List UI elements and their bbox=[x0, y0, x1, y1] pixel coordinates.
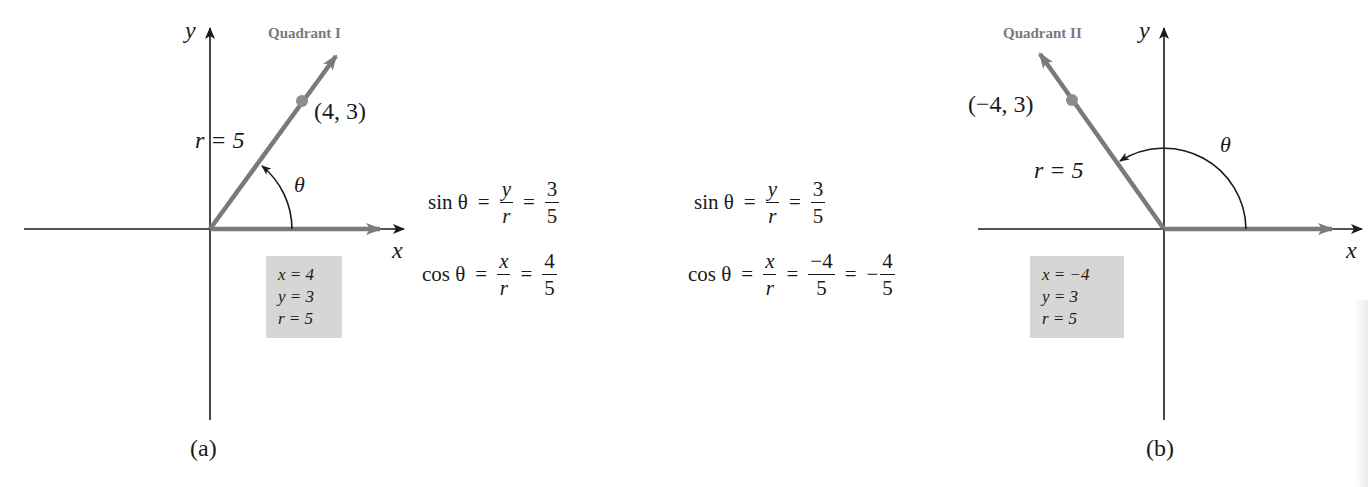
fraction-x-over-r: x r bbox=[497, 250, 510, 299]
denominator: 5 bbox=[882, 275, 893, 299]
figure-b-angle-arc bbox=[1120, 148, 1246, 229]
numerator: x bbox=[763, 250, 776, 275]
figure-b-theta-label: θ bbox=[1220, 134, 1231, 156]
numerator: 4 bbox=[542, 250, 557, 275]
equals-sign: = bbox=[789, 190, 801, 215]
figure-a-angle-arc bbox=[262, 166, 292, 229]
figure-a-quadrant-label: Quadrant I bbox=[268, 26, 341, 41]
figure-a-theta-label: θ bbox=[294, 174, 305, 196]
denominator: r bbox=[500, 275, 508, 299]
figure-a-y-axis-label: y bbox=[185, 18, 196, 42]
denominator: 5 bbox=[547, 203, 558, 227]
fraction-simplified: 4 5 bbox=[880, 250, 895, 299]
figure-b-terminal-ray bbox=[1040, 54, 1164, 229]
cos-lhs: cos θ bbox=[688, 262, 731, 287]
numerator: y bbox=[500, 178, 513, 203]
figure-a-caption: (a) bbox=[190, 436, 217, 460]
equals-sign: = bbox=[520, 262, 532, 287]
page-edge-shadow bbox=[1354, 300, 1368, 487]
figure-b-radius-label: r = 5 bbox=[1034, 158, 1084, 182]
values-box-x: x = 4 bbox=[278, 264, 330, 286]
figure-b-values-box: x = −4 y = 3 r = 5 bbox=[1030, 256, 1124, 338]
diagram-canvas bbox=[0, 0, 1368, 487]
values-box-y: y = 3 bbox=[278, 286, 330, 308]
negative-sign: − bbox=[867, 262, 879, 287]
equals-sign: = bbox=[845, 262, 857, 287]
figure-b-y-axis-label: y bbox=[1139, 18, 1150, 42]
numerator: y bbox=[766, 178, 779, 203]
equals-sign: = bbox=[786, 262, 798, 287]
figure-b-quadrant-label: Quadrant II bbox=[1003, 26, 1082, 41]
denominator: r bbox=[766, 275, 774, 299]
figure-b-point bbox=[1066, 94, 1078, 106]
figure-a-point-label: (4, 3) bbox=[314, 99, 366, 123]
figure-b-sin-equation: sin θ = y r = 3 5 bbox=[694, 178, 825, 227]
numerator: 3 bbox=[545, 178, 560, 203]
equals-sign: = bbox=[478, 190, 490, 215]
figure-a-x-axis-label: x bbox=[392, 238, 403, 262]
equals-sign: = bbox=[523, 190, 535, 215]
figure-a-values-box: x = 4 y = 3 r = 5 bbox=[266, 256, 342, 338]
equals-sign: = bbox=[475, 262, 487, 287]
numerator: 4 bbox=[880, 250, 895, 275]
fraction-x-over-r: x r bbox=[763, 250, 776, 299]
cos-lhs: cos θ bbox=[422, 262, 465, 287]
figure-b-x-axis-label: x bbox=[1346, 238, 1357, 262]
equals-sign: = bbox=[741, 262, 753, 287]
figure-a-sin-equation: sin θ = y r = 3 5 bbox=[428, 178, 559, 227]
denominator: 5 bbox=[816, 275, 827, 299]
values-box-r: r = 5 bbox=[1042, 308, 1112, 330]
fraction-y-over-r: y r bbox=[766, 178, 779, 227]
denominator: 5 bbox=[544, 275, 555, 299]
sin-lhs: sin θ bbox=[428, 190, 468, 215]
figure-b-axes bbox=[978, 28, 1362, 420]
fraction-value: 3 5 bbox=[811, 178, 826, 227]
fraction-y-over-r: y r bbox=[500, 178, 513, 227]
values-box-y: y = 3 bbox=[1042, 286, 1112, 308]
equals-sign: = bbox=[744, 190, 756, 215]
numerator: 3 bbox=[811, 178, 826, 203]
values-box-x: x = −4 bbox=[1042, 264, 1112, 286]
denominator: r bbox=[768, 203, 776, 227]
values-box-r: r = 5 bbox=[278, 308, 330, 330]
fraction-value: −4 5 bbox=[808, 250, 834, 299]
figure-b-point-label: (−4, 3) bbox=[968, 92, 1034, 116]
denominator: r bbox=[502, 203, 510, 227]
figure-b-cos-equation: cos θ = x r = −4 5 = − 4 5 bbox=[688, 250, 895, 299]
fraction-value: 4 5 bbox=[542, 250, 557, 299]
figure-b-caption: (b) bbox=[1146, 436, 1174, 460]
figure-a-point bbox=[296, 95, 308, 107]
figure-a-cos-equation: cos θ = x r = 4 5 bbox=[422, 250, 557, 299]
fraction-value: 3 5 bbox=[545, 178, 560, 227]
denominator: 5 bbox=[813, 203, 824, 227]
numerator: x bbox=[497, 250, 510, 275]
sin-lhs: sin θ bbox=[694, 190, 734, 215]
numerator: −4 bbox=[808, 250, 834, 275]
figure-a-radius-label: r = 5 bbox=[195, 128, 245, 152]
